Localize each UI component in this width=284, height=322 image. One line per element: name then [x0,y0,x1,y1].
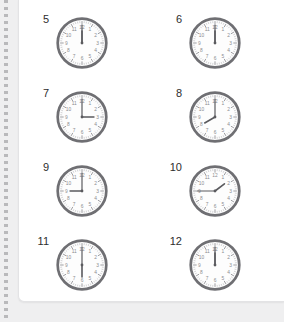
clock-numeral: 4 [227,48,230,53]
clock-numeral: 10 [199,181,205,186]
analog-clock: 121234567891011 [55,238,109,292]
clock-numeral: 10 [199,255,205,260]
clock-numeral: 3 [229,263,232,268]
clock-numeral: 9 [198,263,201,268]
clock-numeral: 10 [66,33,72,38]
clock-problem: 6121234567891011 [152,6,284,80]
clock-numeral: 3 [96,189,99,194]
clock-numeral: 5 [221,276,224,281]
problem-number: 6 [164,14,182,25]
clock-numeral: 4 [227,270,230,275]
clock-numeral: 11 [72,175,77,180]
clock-numeral: 4 [227,196,230,201]
clock-numeral: 9 [198,115,201,120]
clock-numeral: 9 [65,115,68,120]
problem-number: 11 [31,236,49,247]
clock-numeral: 8 [67,196,70,201]
clock-numeral: 5 [221,54,224,59]
clock-numeral: 3 [96,263,99,268]
clock-numeral: 4 [94,122,97,127]
analog-clock: 121234567891011 [55,90,109,144]
clock-numeral: 1 [88,27,91,32]
clock-center-pin [214,264,217,267]
clock-numeral: 5 [88,54,91,59]
clock-numeral: 6 [214,130,217,135]
clock-numeral: 2 [94,255,97,260]
clock-numeral: 7 [73,202,76,207]
clock-numeral: 6 [81,56,84,61]
clock-numeral: 11 [205,175,210,180]
clock-numeral: 11 [205,101,210,106]
clock-center-pin [81,42,84,45]
clock-numeral: 11 [205,249,210,254]
clock-center-pin [81,190,84,193]
clock-numeral: 2 [94,107,97,112]
clock-numeral: 8 [67,122,70,127]
clock-numeral: 1 [221,27,224,32]
clock-numeral: 1 [221,101,224,106]
analog-clock: 121234567891011 [188,164,242,218]
clock-numeral: 2 [94,33,97,38]
clock-numeral: 4 [94,196,97,201]
clock-problem: 11121234567891011 [19,228,152,302]
clock-numeral: 1 [221,175,224,180]
clock-numeral: 5 [221,202,224,207]
clock-numeral: 10 [66,181,72,186]
clock-numeral: 12 [212,173,218,178]
clock-center-pin [214,116,217,119]
clock-numeral: 7 [73,276,76,281]
clock-problem: 5121234567891011 [19,6,152,80]
clock-numeral: 5 [88,276,91,281]
analog-clock: 121234567891011 [188,16,242,70]
page-perforation-edge [4,0,8,322]
clock-numeral: 7 [206,54,209,59]
clock-problem: 9121234567891011 [19,154,152,228]
analog-clock: 121234567891011 [188,90,242,144]
clock-numeral: 2 [227,255,230,260]
clock-numeral: 10 [199,107,205,112]
clock-numeral: 1 [221,249,224,254]
clock-problem: 12121234567891011 [152,228,284,302]
clock-face: 121234567891011 [55,164,109,218]
clock-numeral: 6 [214,204,217,209]
clock-problem: 7121234567891011 [19,80,152,154]
clock-center-pin [214,42,217,45]
clock-face: 121234567891011 [188,238,242,292]
clock-numeral: 9 [65,263,68,268]
clock-numeral: 9 [65,41,68,46]
clock-numeral: 11 [205,27,210,32]
clock-problem-grid: 5121234567891011612123456789101171212345… [19,6,284,302]
clock-numeral: 6 [81,278,84,283]
clock-numeral: 11 [72,27,77,32]
clock-face: 121234567891011 [188,90,242,144]
analog-clock: 121234567891011 [188,238,242,292]
clock-numeral: 3 [229,115,232,120]
clock-numeral: 1 [88,101,91,106]
problem-number: 12 [164,236,182,247]
clock-numeral: 8 [200,196,203,201]
clock-numeral: 10 [66,255,72,260]
clock-numeral: 7 [73,54,76,59]
clock-numeral: 8 [200,48,203,53]
problem-number: 5 [31,14,49,25]
clock-numeral: 1 [88,249,91,254]
clock-numeral: 8 [67,270,70,275]
clock-numeral: 2 [227,33,230,38]
clock-numeral: 7 [206,128,209,133]
clock-numeral: 4 [94,270,97,275]
clock-numeral: 7 [206,276,209,281]
clock-center-pin [214,190,217,193]
clock-numeral: 8 [200,270,203,275]
clock-numeral: 10 [66,107,72,112]
clock-numeral: 3 [96,41,99,46]
clock-numeral: 8 [200,122,203,127]
clock-face: 121234567891011 [188,164,242,218]
clock-face: 121234567891011 [55,16,109,70]
worksheet: 5121234567891011612123456789101171212345… [0,0,284,322]
clock-numeral: 4 [94,48,97,53]
problem-number: 8 [164,88,182,99]
clock-numeral: 5 [221,128,224,133]
clock-numeral: 9 [65,189,68,194]
clock-numeral: 6 [81,204,84,209]
clock-numeral: 7 [73,128,76,133]
